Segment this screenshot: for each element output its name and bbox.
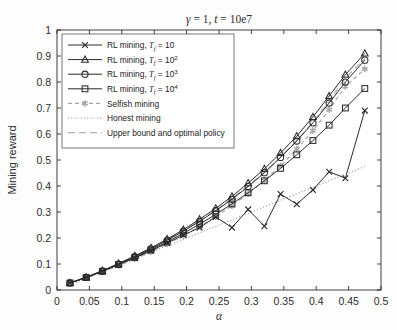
legend-label: RL mining, Tf = 10	[107, 40, 175, 51]
x-tick-label: 0.35	[274, 295, 295, 307]
legend-label-exponent: 4	[174, 83, 178, 90]
title-gamma-value: = 1,	[191, 13, 215, 26]
x-tick-label: 0.45	[338, 295, 359, 307]
y-tick-label: 0.1	[36, 258, 51, 270]
legend-label-main: RL mining,	[107, 84, 149, 94]
legend-label: RL mining, Tf = 104	[107, 83, 178, 96]
x-tick-label: 0.4	[309, 295, 324, 307]
legend-label: Selfish mining	[107, 99, 159, 109]
figure-container: γ = 1, t = 10e7 00.050.10.150.20.250.30.…	[0, 0, 397, 330]
y-tick-label: 0.4	[36, 180, 51, 192]
legend-label: Honest mining	[107, 113, 161, 123]
y-tick-label: 1	[45, 24, 51, 36]
legend-label-main: Selfish mining	[107, 99, 159, 109]
x-tick-label: 0.25	[209, 295, 230, 307]
legend-label-tail: = 10	[155, 69, 174, 79]
y-tick-label: 0.9	[36, 50, 51, 62]
x-tick-label: 0.2	[179, 295, 194, 307]
x-tick-label: 0.15	[144, 295, 165, 307]
x-tick-label: 0.5	[374, 295, 389, 307]
y-tick-label: 0.2	[36, 232, 51, 244]
x-tick-label: 0.3	[244, 295, 259, 307]
legend-label-tail: = 10	[155, 40, 174, 50]
y-tick-label: 0.8	[36, 76, 51, 88]
legend: RL mining, Tf = 10RL mining, Tf = 102RL …	[62, 34, 234, 148]
legend-label: RL mining, Tf = 103	[107, 68, 178, 81]
x-tick-label: 0	[54, 295, 60, 307]
legend-label-main: RL mining,	[107, 40, 149, 50]
legend-label-main: RL mining,	[107, 55, 149, 65]
x-tick-label: 0.05	[79, 295, 100, 307]
legend-label-main: RL mining,	[107, 69, 149, 79]
y-tick-label: 0.6	[36, 128, 51, 140]
legend-label-tail: = 10	[155, 55, 174, 65]
legend-label-exponent: 3	[174, 68, 178, 75]
y-tick-label: 0.5	[36, 154, 51, 166]
plot-title: γ = 1, t = 10e7	[186, 13, 252, 26]
x-axis-title: α	[216, 310, 223, 322]
legend-label: RL mining, Tf = 102	[107, 54, 178, 67]
y-tick-label: 0.3	[36, 206, 51, 218]
y-axis-title: Mining reward	[6, 125, 18, 194]
title-t-value: = 10e7	[217, 13, 252, 25]
legend-label: Upper bound and optimal policy	[107, 128, 226, 138]
x-tick-label: 0.1	[114, 295, 129, 307]
legend-label-tail: = 10	[155, 84, 174, 94]
y-tick-label: 0.7	[36, 102, 51, 114]
legend-label-exponent: 2	[174, 54, 178, 61]
y-tick-label: 0	[45, 284, 51, 296]
legend-label-main: Upper bound and optimal policy	[107, 128, 226, 138]
chart-svg: γ = 1, t = 10e7 00.050.10.150.20.250.30.…	[0, 0, 397, 330]
legend-label-main: Honest mining	[107, 113, 161, 123]
